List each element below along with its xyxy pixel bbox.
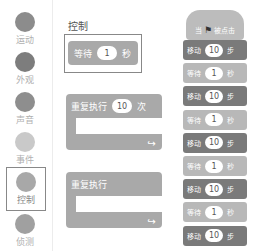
category-label: 外观 bbox=[16, 75, 34, 85]
wait-seconds-block[interactable]: 等待1秒 bbox=[183, 63, 247, 83]
block-label: 重复执行 bbox=[71, 100, 107, 113]
block-label: 秒 bbox=[227, 207, 234, 217]
category-label: 侦测 bbox=[16, 237, 34, 247]
move-steps-block[interactable]: 移动10步 bbox=[183, 40, 247, 60]
wait-seconds-block[interactable]: 等待1秒 bbox=[183, 110, 247, 130]
block-label: 步 bbox=[227, 45, 234, 55]
seconds-input[interactable]: 1 bbox=[205, 206, 223, 219]
block-label: 重复执行 bbox=[71, 178, 107, 191]
category-dot-icon bbox=[15, 92, 35, 112]
category-dot-icon bbox=[15, 214, 35, 234]
block-label: 移动 bbox=[187, 184, 201, 194]
block-label: 次 bbox=[137, 100, 146, 113]
category-label: 控制 bbox=[17, 195, 35, 205]
palette-forever-block[interactable]: 重复执行 ↪ bbox=[66, 172, 162, 228]
block-label: 等待 bbox=[187, 115, 201, 125]
move-steps-block[interactable]: 移动10步 bbox=[183, 179, 247, 199]
block-label: 秒 bbox=[227, 115, 234, 125]
seconds-input[interactable]: 1 bbox=[205, 160, 223, 173]
sidebar-divider bbox=[52, 0, 53, 251]
category-control[interactable]: 控制 bbox=[6, 167, 46, 211]
block-label: 秒 bbox=[227, 68, 234, 78]
block-label: 等待 bbox=[187, 161, 201, 171]
block-label: 等待 bbox=[187, 207, 201, 217]
wait-seconds-input[interactable]: 1 bbox=[97, 46, 117, 60]
wait-seconds-block[interactable]: 等待1秒 bbox=[183, 202, 247, 222]
move-steps-block[interactable]: 移动10步 bbox=[183, 133, 247, 153]
seconds-input[interactable]: 1 bbox=[205, 67, 223, 80]
block-label: 等待 bbox=[74, 47, 92, 60]
loop-arrow-icon: ↪ bbox=[148, 138, 156, 149]
when-flag-clicked-hat-block[interactable]: 当 ⚑ 被点击 bbox=[186, 10, 244, 40]
category-sound[interactable]: 声音 bbox=[0, 88, 50, 130]
block-label: 等待 bbox=[187, 68, 201, 78]
green-flag-icon: ⚑ bbox=[204, 25, 212, 35]
category-motion[interactable]: 运动 bbox=[0, 8, 50, 50]
category-label: 运动 bbox=[16, 35, 34, 45]
move-steps-block[interactable]: 移动10步 bbox=[183, 86, 247, 106]
palette-section-title: 控制 bbox=[68, 18, 88, 33]
category-dot-icon bbox=[15, 12, 35, 32]
seconds-input[interactable]: 1 bbox=[205, 113, 223, 126]
palette-repeat-block[interactable]: 重复执行 10 次 ↪ bbox=[66, 94, 162, 150]
block-label: 步 bbox=[227, 91, 234, 101]
block-label: 秒 bbox=[122, 47, 131, 60]
steps-input[interactable]: 10 bbox=[205, 136, 223, 149]
wait-seconds-block[interactable]: 等待1秒 bbox=[183, 156, 247, 176]
block-label: 当 bbox=[195, 25, 202, 35]
block-label: 步 bbox=[227, 184, 234, 194]
block-label: 移动 bbox=[187, 45, 201, 55]
category-events[interactable]: 事件 bbox=[0, 128, 50, 170]
palette-wait-block[interactable]: 等待 1 秒 bbox=[68, 41, 138, 65]
category-label: 声音 bbox=[16, 115, 34, 125]
repeat-count-input[interactable]: 10 bbox=[112, 99, 132, 113]
category-label: 事件 bbox=[16, 155, 34, 165]
steps-input[interactable]: 10 bbox=[205, 229, 223, 242]
category-looks[interactable]: 外观 bbox=[0, 48, 50, 90]
move-steps-block[interactable]: 移动10步 bbox=[183, 226, 247, 246]
block-label: 步 bbox=[227, 138, 234, 148]
loop-arrow-icon: ↪ bbox=[148, 216, 156, 227]
category-sensing[interactable]: 侦测 bbox=[0, 210, 50, 251]
block-label: 步 bbox=[227, 231, 234, 241]
category-dot-icon bbox=[16, 172, 36, 192]
category-dot-icon bbox=[15, 52, 35, 72]
block-label: 移动 bbox=[187, 138, 201, 148]
steps-input[interactable]: 10 bbox=[205, 183, 223, 196]
steps-input[interactable]: 10 bbox=[205, 90, 223, 103]
block-label: 被点击 bbox=[214, 25, 235, 35]
block-label: 移动 bbox=[187, 231, 201, 241]
category-dot-icon bbox=[15, 132, 35, 152]
steps-input[interactable]: 10 bbox=[205, 44, 223, 57]
block-label: 移动 bbox=[187, 91, 201, 101]
block-label: 秒 bbox=[227, 161, 234, 171]
